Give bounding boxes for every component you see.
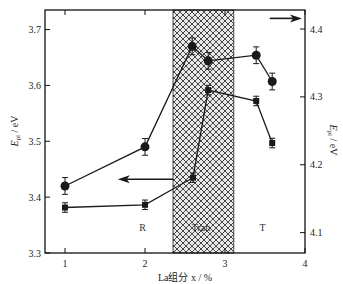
data-point-circle bbox=[61, 181, 70, 190]
x-tick-label: 4 bbox=[303, 258, 308, 269]
x-tick-label: 3 bbox=[223, 258, 228, 269]
shaded-region-layer bbox=[173, 10, 234, 253]
data-point-square bbox=[205, 87, 211, 93]
data-point-circle bbox=[188, 42, 197, 51]
data-point-square bbox=[142, 202, 148, 208]
series-line-squares bbox=[65, 90, 272, 207]
x-tick-label: 1 bbox=[63, 258, 68, 269]
data-point-square bbox=[190, 175, 196, 181]
data-point-circle bbox=[268, 77, 277, 86]
data-point-square bbox=[62, 205, 68, 211]
y-right-tick-label: 4.2 bbox=[310, 159, 323, 170]
data-point-square bbox=[253, 98, 259, 104]
shaded-region-tran bbox=[173, 10, 234, 253]
y-axis-right-title: Epl / eV bbox=[326, 123, 339, 156]
region-label-t: T bbox=[260, 222, 266, 233]
y-right-tick-label: 4.4 bbox=[310, 24, 323, 35]
data-point-circle bbox=[252, 51, 261, 60]
region-label-tran: Tran bbox=[192, 222, 211, 233]
y-right-tick-label: 4.3 bbox=[310, 91, 323, 102]
data-point-circle bbox=[141, 142, 150, 151]
y-right-tick-label: 4.1 bbox=[310, 227, 323, 238]
y-left-tick-label: 3.5 bbox=[29, 136, 42, 147]
series-line-circles bbox=[65, 46, 272, 186]
region-label-r: R bbox=[139, 222, 146, 233]
y-left-tick-label: 3.4 bbox=[29, 192, 42, 203]
chart: 12343.33.43.53.63.74.14.24.34.4 RTranT L… bbox=[0, 0, 343, 284]
y-left-tick-label: 3.7 bbox=[29, 24, 42, 35]
y-axis-left-title: Epl / eV bbox=[9, 115, 22, 148]
data-point-circle bbox=[204, 56, 213, 65]
y-left-tick-label: 3.3 bbox=[29, 248, 42, 259]
x-tick-label: 2 bbox=[143, 258, 148, 269]
data-point-square bbox=[269, 140, 275, 146]
series-layer bbox=[61, 38, 277, 212]
y-left-tick-label: 3.6 bbox=[29, 80, 42, 91]
x-axis-title: La组分 x / % bbox=[158, 271, 212, 283]
